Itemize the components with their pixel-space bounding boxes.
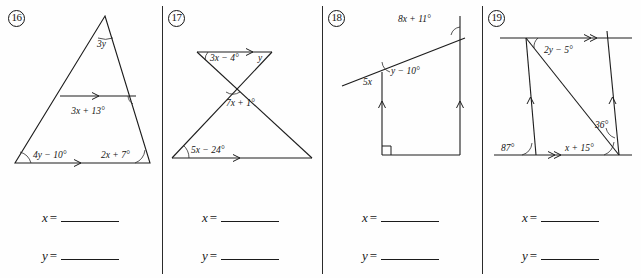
equals-sign: =	[208, 248, 217, 263]
label-bottom-interior-angle: x + 15°	[564, 143, 594, 153]
figure-19: 2y − 5° 36° 87° x + 15°	[480, 0, 641, 196]
answer-blank-y[interactable]	[541, 248, 599, 260]
answer-area-18: x= y=	[320, 196, 480, 276]
left-parallel-side	[526, 38, 536, 155]
parallel-arrow-icon	[609, 97, 616, 104]
transversal-line	[342, 38, 465, 86]
equals-sign: =	[368, 210, 377, 225]
answer-area-17: x= y=	[160, 196, 320, 276]
answer-variable-y: y	[42, 248, 48, 263]
label-right-interior-angle: 36°	[594, 120, 609, 130]
problem-18: 18 8x + 11° 5x y − 10° x=	[320, 0, 480, 278]
equals-sign: =	[48, 210, 57, 225]
answer-variable-y: y	[362, 248, 368, 263]
equals-sign: =	[208, 210, 217, 225]
answer-variable-x: x	[202, 210, 208, 225]
answer-row-y: y=	[522, 248, 599, 264]
answer-row-y: y=	[202, 248, 279, 264]
answer-blank-y[interactable]	[221, 248, 279, 260]
answer-blank-x[interactable]	[221, 210, 279, 222]
right-parallel-side	[607, 31, 619, 155]
answer-blank-x[interactable]	[61, 210, 119, 222]
answer-variable-y: y	[522, 248, 528, 263]
parallel-arrow-icon	[527, 97, 534, 104]
worksheet-page: 16 3y 3x + 13° 4y − 10° 2x + 7°	[0, 0, 641, 278]
equals-sign: =	[528, 248, 537, 263]
answer-variable-x: x	[362, 210, 368, 225]
angle-arc	[135, 150, 145, 163]
answer-blank-x[interactable]	[541, 210, 599, 222]
answer-area-19: x= y=	[480, 196, 640, 276]
answer-blank-x[interactable]	[381, 210, 439, 222]
label-bottom-left-angle: 4y − 10°	[33, 150, 67, 160]
equals-sign: =	[48, 248, 57, 263]
label-apex-angle: 3y	[96, 39, 107, 49]
answer-row-x: x=	[362, 210, 439, 226]
label-top-interior-angle: 2y − 5°	[544, 45, 573, 55]
label-left-angle: 5x	[363, 77, 373, 87]
transversal-line-b	[172, 52, 272, 158]
angle-arc	[534, 38, 538, 48]
answer-variable-x: x	[522, 210, 528, 225]
answer-row-x: x=	[42, 210, 119, 226]
problem-17: 17 3x − 4° y 7x + 1° 5x − 24° x	[160, 0, 320, 278]
figure-18: 8x + 11° 5x y − 10°	[320, 0, 480, 196]
problem-16: 16 3y 3x + 13° 4y − 10° 2x + 7°	[0, 0, 160, 278]
angle-arc	[183, 145, 189, 158]
triangle-outline	[15, 16, 150, 163]
answer-row-x: x=	[202, 210, 279, 226]
answer-variable-x: x	[42, 210, 48, 225]
answer-row-y: y=	[362, 248, 439, 264]
right-angle-marker-icon	[382, 146, 391, 155]
label-top-left-angle: 3x − 4°	[209, 53, 239, 63]
angle-arc	[20, 152, 31, 163]
equals-sign: =	[528, 210, 537, 225]
angle-arc	[205, 52, 208, 60]
label-intersection-angle: 7x + 1°	[226, 98, 255, 108]
answer-blank-y[interactable]	[61, 248, 119, 260]
label-top-right-angle: y	[257, 53, 263, 63]
label-bottom-left-angle: 5x − 24°	[191, 145, 225, 155]
answer-variable-y: y	[202, 248, 208, 263]
label-midsegment-angle: 3x + 13°	[70, 106, 105, 116]
label-bottom-right-angle: 2x + 7°	[101, 150, 130, 160]
equals-sign: =	[368, 248, 377, 263]
answer-row-y: y=	[42, 248, 119, 264]
label-interior-angle: y − 10°	[390, 66, 420, 76]
figure-16: 3y 3x + 13° 4y − 10° 2x + 7°	[0, 0, 160, 196]
figure-17: 3x − 4° y 7x + 1° 5x − 24°	[160, 0, 320, 196]
angle-arc	[604, 142, 614, 155]
problem-19: 19 2y − 5° 36° 87°	[480, 0, 640, 278]
answer-row-x: x=	[522, 210, 599, 226]
diagonal-line	[526, 38, 619, 155]
answer-blank-y[interactable]	[381, 248, 439, 260]
label-bottom-left-angle: 87°	[501, 143, 515, 153]
angle-arc	[451, 27, 460, 35]
answer-area-16: x= y=	[0, 196, 160, 276]
angle-arc	[522, 143, 532, 155]
label-top-right-angle: 8x + 11°	[398, 14, 431, 24]
